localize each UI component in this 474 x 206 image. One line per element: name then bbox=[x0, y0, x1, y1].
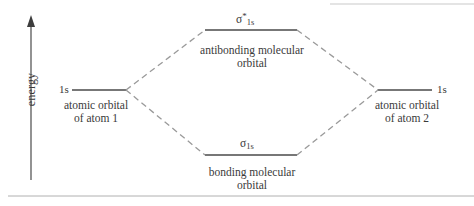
antibonding-caption-line1: antibonding molecular bbox=[186, 44, 318, 57]
atom2-caption-line2: of atom 2 bbox=[352, 112, 462, 125]
bonding-caption-line2: orbital bbox=[186, 179, 318, 192]
bonding-caption-line1: bonding molecular bbox=[186, 166, 318, 179]
antibonding-caption-line2: orbital bbox=[186, 57, 318, 70]
atom2-orbital-label: 1s bbox=[437, 83, 447, 95]
bonding-orbital-symbol: σ1s bbox=[240, 137, 254, 151]
atom1-orbital-label: 1s bbox=[59, 83, 69, 95]
atom1-caption-line2: of atom 1 bbox=[41, 112, 151, 125]
bonding-orbital-caption: bonding molecular orbital bbox=[186, 166, 318, 192]
antibonding-orbital-caption: antibonding molecular orbital bbox=[186, 44, 318, 70]
atom2-caption: atomic orbital of atom 2 bbox=[352, 99, 462, 125]
atom2-caption-line1: atomic orbital bbox=[352, 99, 462, 112]
atom1-caption-line1: atomic orbital bbox=[41, 99, 151, 112]
energy-axis-label: energy bbox=[24, 55, 39, 125]
energy-axis-arrowhead bbox=[27, 15, 35, 27]
atom1-caption: atomic orbital of atom 1 bbox=[41, 99, 151, 125]
antibonding-orbital-symbol: σ*1s bbox=[236, 11, 254, 27]
mo-diagram-figure: energy σ*1s antibonding molecular orbita… bbox=[0, 0, 474, 206]
subscript-1s: 1s bbox=[247, 17, 255, 27]
subscript-1s: 1s bbox=[246, 141, 254, 151]
